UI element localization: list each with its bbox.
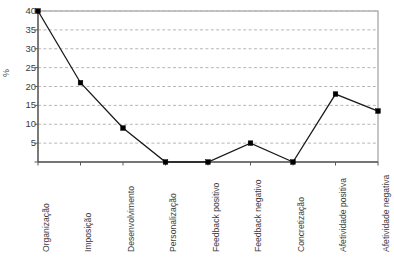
x-axis-tick-label: Imposição — [84, 213, 93, 252]
x-axis-tick-label: Concretização — [297, 197, 306, 252]
x-axis-tick-label: Afetividade positiva — [339, 178, 348, 252]
x-axis-tick-label: Organização — [42, 203, 51, 252]
x-axis-tick-label: Afetividade negativa — [382, 175, 391, 252]
x-axis-tick-label: Personalização — [169, 193, 178, 252]
x-axis-tick-label: Feedback negativo — [254, 179, 263, 252]
x-axis-tick-labels: OrganizaçãoImposiçãoDesenvolvimentoPerso… — [0, 0, 394, 259]
x-axis-tick-label: Feedback positivo — [212, 183, 221, 252]
x-axis-tick-label: Desenvolvimento — [127, 186, 136, 252]
line-chart: % 510152025303540 OrganizaçãoImposiçãoDe… — [0, 0, 394, 259]
